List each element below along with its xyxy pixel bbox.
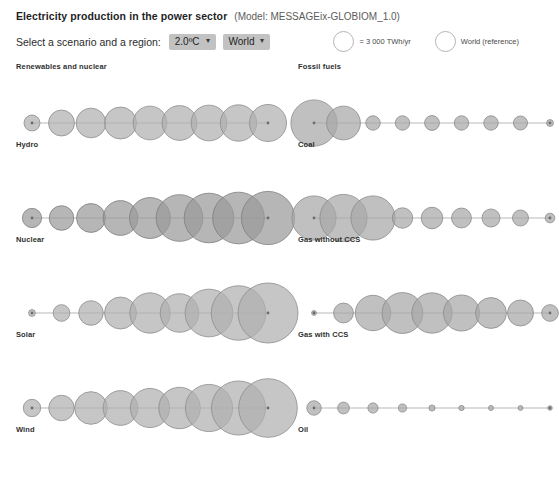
chevron-down-icon: ▾ [260, 37, 264, 45]
region-dropdown[interactable]: World ▾ [223, 34, 271, 50]
series-row: Oil [298, 360, 559, 455]
legend: = 3 000 TWh/yr World (reference) [333, 31, 537, 52]
series-plot [298, 360, 559, 455]
data-point-circle[interactable] [338, 402, 350, 414]
legend-reference-label: World (reference) [461, 37, 519, 46]
series-label: Oil [298, 425, 308, 434]
series-end-marker [549, 217, 552, 220]
series-end-marker [549, 122, 552, 125]
data-point-circle[interactable] [76, 108, 106, 138]
data-point-circle[interactable] [476, 298, 507, 329]
controls-row: Select a scenario and a region: 2.0ºC ▾ … [16, 31, 559, 52]
series-plot [16, 265, 278, 360]
data-point-circle[interactable] [484, 116, 498, 130]
renewables-rows: HydroNuclearSolarWind [16, 75, 286, 455]
data-point-circle[interactable] [77, 204, 106, 233]
data-point-circle[interactable] [429, 405, 435, 411]
data-point-circle[interactable] [79, 301, 104, 326]
series-circles [22, 191, 294, 244]
column-renewables: Renewables and nuclear HydroNuclearSolar… [16, 62, 286, 455]
series-start-marker [313, 312, 316, 315]
data-point-circle[interactable] [49, 395, 75, 421]
series-end-marker [549, 407, 552, 410]
column-fossil: Fossil fuels CoalGas without CCSGas with… [298, 62, 559, 455]
series-start-marker [313, 122, 316, 125]
data-point-circle[interactable] [425, 116, 440, 131]
page-title: Electricity production in the power sect… [16, 10, 227, 22]
control-label: Select a scenario and a region: [16, 36, 161, 48]
data-point-circle[interactable] [421, 207, 443, 229]
series-plot [16, 360, 278, 455]
series-circles [23, 379, 297, 438]
data-point-circle[interactable] [75, 392, 108, 425]
data-point-circle[interactable] [49, 206, 74, 231]
data-point-circle[interactable] [395, 116, 409, 130]
scenario-dropdown[interactable]: 2.0ºC ▾ [169, 34, 216, 50]
series-start-marker [31, 122, 34, 125]
series-label: Hydro [16, 140, 38, 149]
data-point-circle[interactable] [53, 305, 70, 322]
series-label: Wind [16, 425, 35, 434]
chevron-down-icon: ▾ [206, 37, 210, 45]
data-point-circle[interactable] [459, 405, 464, 410]
series-circles [29, 283, 298, 343]
data-point-circle[interactable] [488, 405, 493, 410]
data-point-circle[interactable] [513, 116, 527, 130]
series-row: Hydro [16, 75, 278, 170]
section-heading-fossil: Fossil fuels [298, 62, 559, 71]
series-row: Gas with CCS [298, 265, 559, 360]
series-end-marker [267, 122, 270, 125]
data-point-circle[interactable] [392, 208, 412, 228]
legend-size-label: = 3 000 TWh/yr [359, 37, 410, 46]
data-point-circle[interactable] [454, 116, 468, 130]
chart-columns: Renewables and nuclear HydroNuclearSolar… [0, 62, 559, 497]
legend-item-size: = 3 000 TWh/yr [333, 31, 410, 52]
series-label: Gas without CCS [298, 235, 360, 244]
series-start-marker [31, 407, 34, 410]
series-row: Solar [16, 265, 278, 360]
series-row: Nuclear [16, 170, 278, 265]
series-end-marker [267, 312, 270, 315]
page-header: Electricity production in the power sect… [0, 0, 559, 52]
data-point-circle[interactable] [351, 196, 395, 240]
data-point-circle[interactable] [443, 295, 479, 331]
model-label: (Model: MESSAGEix-GLOBIOM_1.0) [234, 11, 400, 22]
series-plot [298, 75, 559, 170]
series-start-marker [31, 217, 34, 220]
series-plot [298, 170, 559, 265]
series-label: Solar [16, 330, 35, 339]
series-end-marker [267, 217, 270, 220]
data-point-circle[interactable] [366, 116, 380, 130]
scenario-dropdown-value: 2.0ºC [175, 36, 200, 47]
series-plot [298, 265, 559, 360]
series-label: Coal [298, 140, 315, 149]
title-row: Electricity production in the power sect… [16, 10, 559, 22]
series-plot [16, 170, 278, 265]
legend-item-reference: World (reference) [435, 31, 519, 52]
series-plot [16, 75, 278, 170]
series-end-marker [267, 407, 270, 410]
region-dropdown-value: World [229, 36, 255, 47]
data-point-circle[interactable] [327, 106, 361, 140]
series-start-marker [313, 217, 316, 220]
series-label: Nuclear [16, 235, 44, 244]
series-start-marker [313, 407, 316, 410]
data-point-circle[interactable] [513, 210, 529, 226]
data-point-circle[interactable] [508, 300, 534, 326]
data-point-circle[interactable] [334, 303, 354, 323]
data-point-circle[interactable] [368, 403, 378, 413]
legend-reference-circle-icon [435, 31, 456, 52]
data-point-circle[interactable] [105, 107, 137, 139]
data-point-circle[interactable] [518, 406, 523, 411]
series-circles [24, 104, 287, 141]
data-point-circle[interactable] [398, 404, 406, 412]
data-point-circle[interactable] [49, 110, 75, 136]
section-heading-renewables: Renewables and nuclear [16, 62, 286, 71]
legend-size-circle-icon [333, 31, 354, 52]
series-row: Gas without CCS [298, 170, 559, 265]
data-point-circle[interactable] [452, 208, 472, 228]
data-point-circle[interactable] [482, 209, 500, 227]
series-row: Coal [298, 75, 559, 170]
series-row: Wind [16, 360, 278, 455]
series-start-marker [31, 312, 34, 315]
